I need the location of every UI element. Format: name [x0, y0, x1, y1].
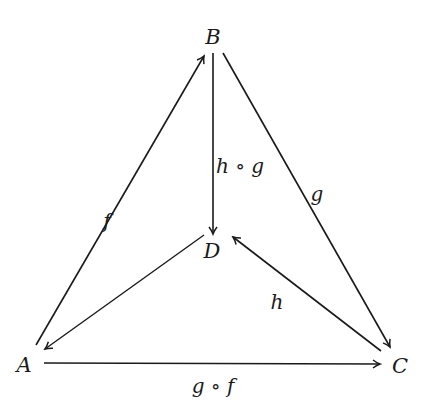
object-d-label: D	[204, 241, 221, 262]
arrow-d-to-a	[45, 235, 204, 349]
arrow-f-a-to-b	[36, 56, 204, 345]
arrow-g-b-to-c	[223, 53, 390, 347]
object-b-label: B	[205, 27, 220, 48]
morphism-label-a-c: g ∘ f	[192, 376, 235, 396]
arrow-h-c-to-d	[233, 237, 381, 351]
arrow-gf-a-to-c	[44, 363, 380, 364]
morphism-label-b-d: h ∘ g	[216, 156, 264, 176]
object-a-label: A	[16, 355, 31, 376]
morphism-label-a-b: f	[103, 211, 110, 231]
morphism-label-b-c: g	[311, 184, 324, 204]
morphism-label-c-d: h	[271, 292, 284, 312]
object-c-label: C	[392, 356, 408, 377]
diagram-canvas	[0, 0, 431, 414]
